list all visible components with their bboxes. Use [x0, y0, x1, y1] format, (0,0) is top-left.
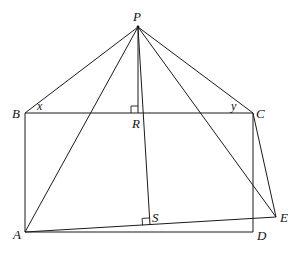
label-E: E: [279, 210, 288, 225]
point-P-dot: [137, 26, 140, 29]
angle-label-y: y: [230, 99, 237, 113]
segment-PA: [25, 27, 138, 232]
label-B: B: [12, 106, 20, 121]
label-R: R: [131, 116, 140, 131]
segments: [25, 27, 276, 232]
angle-label-x: x: [36, 99, 43, 113]
label-S: S: [152, 210, 159, 225]
right-angle-marker-R: [131, 106, 138, 113]
label-C: C: [256, 106, 265, 121]
label-A: A: [12, 227, 21, 242]
segment-AE: [25, 217, 276, 232]
label-P: P: [132, 9, 141, 24]
label-D: D: [256, 228, 267, 243]
geometry-diagram: P B C R A D E S x y: [0, 0, 302, 253]
